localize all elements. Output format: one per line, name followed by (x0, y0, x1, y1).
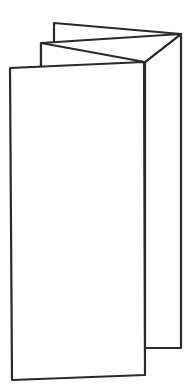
brochure-panel-back-right (145, 34, 181, 348)
brochure-panel-front (10, 62, 145, 380)
folded-brochure-illustration (0, 0, 195, 387)
